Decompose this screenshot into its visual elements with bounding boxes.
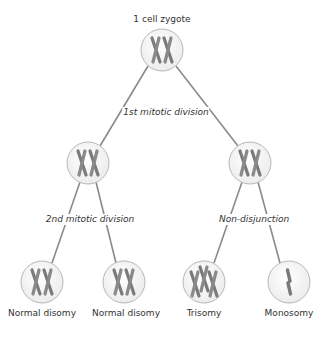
zygote-cell <box>141 29 183 71</box>
outcome-cell-trisomy <box>183 261 225 303</box>
outcome-label: Normal disomy <box>92 308 160 319</box>
outcome-label: Normal disomy <box>8 308 76 319</box>
outcome-label: Trisomy <box>187 308 222 319</box>
outcome-cell-monosomy <box>268 261 310 303</box>
outcome-label: Monosomy <box>265 308 314 319</box>
cell-division-diagram <box>0 0 323 337</box>
nondisjunction-label: Non-disjunction <box>218 214 290 225</box>
daughter-cell-right <box>229 142 271 184</box>
outcome-cell-normal-disomy-2 <box>103 261 145 303</box>
first-division-label: 1st mitotic division <box>122 107 209 118</box>
second-division-label: 2nd mitotic division <box>45 214 136 225</box>
zygote-label: 1 cell zygote <box>133 14 190 25</box>
chromosome-icon <box>288 270 291 294</box>
outcome-cell-normal-disomy-1 <box>21 261 63 303</box>
daughter-cell-left <box>67 142 109 184</box>
